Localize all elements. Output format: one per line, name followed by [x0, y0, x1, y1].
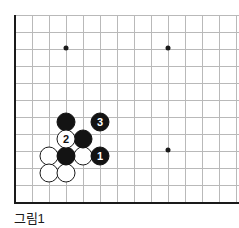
- stone-move-number: 3: [97, 116, 103, 127]
- grid-line-vertical: [202, 15, 203, 202]
- figure-caption: 그림1: [14, 208, 44, 227]
- grid-line-horizontal: [15, 32, 239, 33]
- stone-white: [57, 164, 76, 183]
- grid-line-vertical: [117, 15, 118, 202]
- figure-caption-area: 그림1: [0, 206, 239, 228]
- grid-line-vertical: [100, 15, 101, 202]
- grid-line-horizontal: [15, 83, 239, 84]
- grid-line-horizontal: [15, 185, 239, 186]
- stone-move-3: 3: [91, 113, 110, 132]
- stone-black: [57, 147, 76, 166]
- grid-line-vertical: [32, 15, 33, 202]
- stone-move-number: 1: [97, 150, 103, 161]
- grid-line-vertical: [185, 15, 186, 202]
- grid-line-vertical: [219, 15, 220, 202]
- go-board: 231: [0, 0, 239, 206]
- grid-line-vertical: [83, 15, 84, 202]
- grid-line-horizontal: [15, 15, 239, 16]
- grid-line-horizontal: [15, 117, 239, 118]
- grid-line-vertical: [151, 15, 152, 202]
- stone-black: [74, 130, 93, 149]
- grid-line-horizontal: [15, 66, 239, 67]
- grid-line-vertical: [168, 15, 169, 202]
- star-point-top-left: [64, 46, 69, 51]
- stone-move-number: 2: [63, 133, 69, 144]
- grid-line-vertical: [134, 15, 135, 202]
- grid-line-vertical: [236, 15, 237, 202]
- grid-line-horizontal: [15, 100, 239, 101]
- grid-line-horizontal: [15, 49, 239, 50]
- grid-line-horizontal: [15, 134, 239, 135]
- stone-move-1: 1: [91, 147, 110, 166]
- star-point-bottom-right: [166, 148, 171, 153]
- go-figure: 231 그림1: [0, 0, 239, 228]
- board-edge-bottom: [14, 202, 239, 204]
- star-point-top-right: [166, 46, 171, 51]
- board-edge-left: [14, 15, 16, 203]
- stone-move-2: 2: [57, 130, 76, 149]
